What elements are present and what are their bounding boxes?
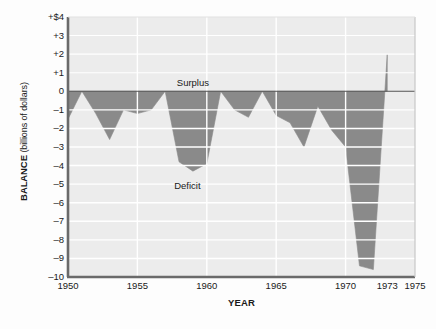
- x-axis-tick-labels: 1950195519601965197019731975: [0, 280, 436, 296]
- x-axis-title: YEAR: [68, 297, 415, 308]
- x-tick-label: 1975: [404, 280, 425, 291]
- x-tick-label: 1960: [196, 280, 217, 291]
- surplus-label: Surplus: [177, 77, 209, 88]
- deficit-label: Deficit: [174, 180, 200, 191]
- x-tick-label: 1950: [57, 280, 78, 291]
- chart-figure: BALANCE (billions of dollars) +$4+3+2+10…: [0, 0, 436, 329]
- x-tick-label: 1965: [266, 280, 287, 291]
- x-tick-label: 1973: [377, 280, 398, 291]
- x-tick-label: 1955: [127, 280, 148, 291]
- x-tick-label: 1970: [335, 280, 356, 291]
